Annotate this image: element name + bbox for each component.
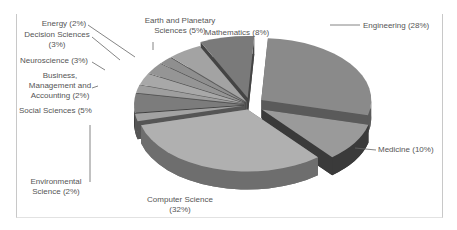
data-label-environmental-science: EnvironmentalScience (2%): [30, 177, 81, 196]
data-label-decision-sciences: Decision Sciences(3%): [24, 30, 89, 49]
data-label-mathematics: Mathematics (8%): [205, 28, 270, 37]
leader-line: [88, 25, 135, 57]
data-label-neuroscience: Neuroscience (3%): [20, 56, 88, 65]
data-label-computer-science: Computer Science(32%): [147, 195, 213, 214]
leader-line: [92, 86, 98, 88]
pie-chart: Engineering (28%)Medicine (10%)Computer …: [0, 0, 457, 230]
data-label-engineering: Engineering (28%): [363, 21, 430, 30]
data-label-social-sciences: Social Sciences (5%: [19, 106, 92, 115]
leader-line: [92, 62, 105, 70]
data-label-business-management-and-accounting: Business,Management andAccounting (2%): [29, 71, 91, 100]
leader-line: [92, 37, 120, 60]
data-label-medicine: Medicine (10%): [378, 145, 434, 154]
data-label-energy: Energy (2%): [42, 19, 87, 28]
